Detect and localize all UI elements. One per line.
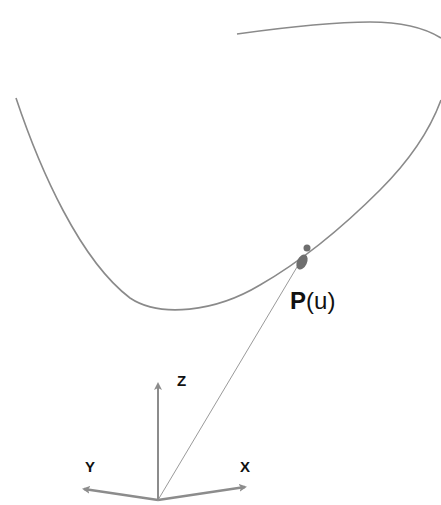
z-axis-label: Z [177,372,186,389]
x-axis [158,487,245,500]
point-label: P(u) [290,287,335,315]
y-axis-label: Y [85,458,95,475]
parametric-curve [16,98,441,310]
diagram-canvas [0,0,441,505]
parametric-curve-upper [237,22,441,38]
x-axis-label: X [240,458,250,475]
param-name: u [314,287,327,314]
point-symbol: P [290,287,306,314]
y-axis [84,489,158,500]
param-close: ) [327,287,335,314]
param-open: ( [306,287,314,314]
